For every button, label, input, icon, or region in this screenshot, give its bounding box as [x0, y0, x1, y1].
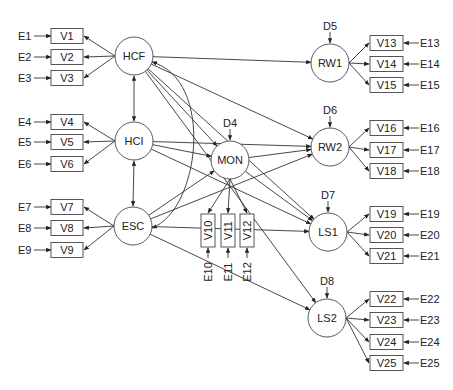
path-mon-rw2	[249, 149, 311, 157]
latent-label: HCI	[125, 135, 144, 147]
latent-ls1: LS1	[309, 213, 347, 251]
indicator-label: V10	[202, 221, 214, 241]
indicator-label: V6	[60, 158, 73, 170]
loading-arrow	[346, 318, 369, 342]
error-label: E16	[420, 122, 440, 134]
indicator-label: V19	[377, 208, 397, 220]
indicator-label: V7	[60, 201, 73, 213]
disturbance-d8: D8	[320, 275, 334, 287]
loading-arrow	[346, 318, 369, 363]
error-label: E22	[420, 293, 440, 305]
loading-arrow	[84, 226, 114, 228]
loading-arrow	[84, 56, 115, 78]
indicator-label: V25	[377, 357, 397, 369]
indicator-label: V13	[377, 37, 397, 49]
disturbance-d6: D6	[323, 104, 337, 116]
indicator-label: V5	[60, 136, 73, 148]
indicator-label: V9	[60, 244, 73, 256]
error-label: E10	[202, 262, 214, 282]
covariance-hci-esc	[133, 161, 134, 206]
indicator-label: V24	[377, 336, 397, 348]
loading-arrow	[349, 63, 369, 64]
latent-rw2: RW2	[311, 128, 349, 166]
latent-label: RW2	[318, 141, 342, 153]
error-label: E21	[420, 250, 440, 262]
error-label: E23	[420, 314, 440, 326]
indicator-label: V11	[222, 221, 234, 240]
loading-arrow	[84, 141, 115, 142]
sem-diagram: V1E1V2E2V3E3V4E4V5E5V6E6V7E7V8E8V9E9V13E…	[0, 0, 453, 390]
latent-label: MON	[217, 154, 243, 166]
disturbance-d5: D5	[323, 20, 337, 32]
error-label: E15	[420, 79, 440, 91]
loading-arrow	[84, 207, 114, 226]
loading-arrow	[349, 43, 369, 63]
latent-label: ESC	[122, 220, 145, 232]
loading-arrow	[84, 56, 115, 57]
loading-arrow	[347, 214, 369, 232]
indicator-v12: V12E12	[240, 214, 254, 282]
path-esc-mon	[149, 171, 215, 216]
indicator-label: V14	[377, 58, 397, 70]
disturbance-d7: D7	[321, 189, 335, 201]
indicator-label: V4	[60, 116, 73, 128]
disturbance-label: D5	[323, 20, 337, 32]
loading-arrow	[347, 232, 369, 256]
path-mon-ls1	[245, 171, 312, 221]
error-label: E11	[222, 263, 234, 282]
loading-arrow	[346, 318, 369, 320]
path-hcf-rw1	[153, 57, 311, 63]
latent-label: HCF	[123, 50, 146, 62]
indicator-label: V20	[377, 229, 397, 241]
indicator-label: V1	[60, 30, 73, 42]
indicator-label: V23	[377, 314, 397, 326]
loading-arrow	[349, 63, 369, 85]
error-label: E3	[18, 72, 31, 84]
loading-arrow	[84, 122, 115, 141]
error-label: E6	[18, 158, 31, 170]
indicator-label: V8	[60, 222, 73, 234]
error-label: E25	[420, 357, 440, 369]
loading-arrow	[349, 147, 369, 171]
error-label: E7	[18, 201, 31, 213]
latent-ls2: LS2	[308, 299, 346, 337]
covariance-hcf-esc	[152, 62, 194, 228]
loading-arrow	[84, 141, 115, 164]
disturbance-label: D7	[321, 189, 335, 201]
indicator-v11: V11E11	[221, 214, 235, 281]
error-label: E20	[420, 229, 440, 241]
error-label: E1	[18, 30, 31, 42]
indicator-label: V15	[377, 79, 397, 91]
error-label: E24	[420, 336, 440, 348]
loading-arrow	[84, 36, 115, 56]
path-hcf-mon	[147, 70, 217, 146]
indicator-label: V21	[377, 250, 397, 262]
latent-label: LS1	[318, 226, 338, 238]
indicator-label: V2	[60, 51, 73, 63]
error-label: E19	[420, 208, 440, 220]
disturbance-label: D8	[320, 275, 334, 287]
latent-label: LS2	[317, 312, 337, 324]
loading-arrow	[349, 128, 369, 147]
error-label: E14	[420, 58, 440, 70]
indicator-label: V18	[377, 165, 397, 177]
disturbance-label: D6	[323, 104, 337, 116]
path-edges	[34, 32, 419, 363]
error-label: E2	[18, 51, 31, 63]
error-label: E9	[18, 244, 31, 256]
indicator-v10: V10E10	[201, 214, 215, 282]
loading-arrow	[349, 147, 369, 150]
latent-mon: MON	[211, 141, 249, 179]
loading-arrow	[84, 226, 114, 250]
error-label: E8	[18, 222, 31, 234]
error-label: E5	[18, 136, 31, 148]
latent-label: RW1	[318, 57, 342, 69]
indicator-label: V12	[241, 221, 253, 241]
error-label: E17	[420, 144, 440, 156]
error-label: E4	[18, 116, 31, 128]
disturbance-label: D4	[223, 117, 237, 129]
latent-hci: HCI	[115, 122, 153, 160]
loading-arrow	[347, 232, 369, 235]
loading-arrow	[346, 299, 369, 318]
error-label: E18	[420, 165, 440, 177]
